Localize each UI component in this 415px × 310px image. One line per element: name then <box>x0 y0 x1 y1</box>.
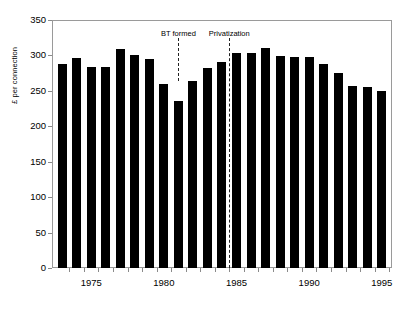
y-axis-tick-label: 200 <box>20 121 46 131</box>
bar <box>276 56 285 268</box>
x-axis-tick-mark <box>316 268 317 272</box>
bar <box>334 73 343 268</box>
bar <box>101 67 110 268</box>
x-axis-tick-mark <box>258 268 259 272</box>
x-axis-tick-mark <box>331 268 332 272</box>
x-axis-tick-mark <box>215 268 216 272</box>
bar <box>232 53 241 268</box>
bar <box>377 91 386 268</box>
x-axis-tick-mark <box>244 268 245 272</box>
bar <box>116 49 125 268</box>
bar <box>72 58 81 268</box>
y-axis-tick-label: 150 <box>20 157 46 167</box>
bar <box>174 101 183 268</box>
bar <box>319 64 328 268</box>
bar <box>247 53 256 268</box>
x-axis-tick-mark <box>113 268 114 272</box>
bar <box>87 67 96 268</box>
annotation-line <box>178 38 179 81</box>
bar <box>290 57 299 268</box>
x-axis-tick-mark <box>186 268 187 272</box>
x-axis-tick-mark <box>84 268 85 272</box>
bar <box>348 86 357 268</box>
y-axis-tick-label: 250 <box>20 86 46 96</box>
bar <box>159 84 168 268</box>
x-axis-tick-mark <box>200 268 201 272</box>
x-axis-tick-mark <box>273 268 274 272</box>
bar <box>305 57 314 268</box>
x-axis-tick-mark <box>142 268 143 272</box>
bar <box>58 64 67 268</box>
x-axis-tick-label: 1975 <box>71 278 111 288</box>
y-axis-tick-mark <box>48 268 52 269</box>
x-axis-tick-mark <box>98 268 99 272</box>
y-axis-tick-label: 350 <box>20 15 46 25</box>
bar <box>188 81 197 268</box>
x-axis-tick-label: 1995 <box>362 278 402 288</box>
y-axis-tick-label: 300 <box>20 50 46 60</box>
x-axis-tick-mark <box>389 268 390 272</box>
bar <box>261 48 270 268</box>
x-axis-tick-mark <box>128 268 129 272</box>
x-axis-tick-mark <box>171 268 172 272</box>
bar <box>130 55 139 268</box>
annotation-line <box>229 38 230 268</box>
x-axis-tick-mark <box>346 268 347 272</box>
x-axis-tick-mark <box>287 268 288 272</box>
bar <box>363 87 372 268</box>
x-axis-tick-label: 1985 <box>217 278 257 288</box>
x-axis-tick-label: 1990 <box>289 278 329 288</box>
x-axis-tick-mark <box>229 268 230 272</box>
x-axis-tick-mark <box>69 268 70 272</box>
y-axis-tick-label: 50 <box>20 228 46 238</box>
y-axis-tick-label: 100 <box>20 192 46 202</box>
bar-chart: £ per connection 050100150200250300350 B… <box>0 0 415 310</box>
bar <box>217 62 226 268</box>
y-axis-title: £ per connection <box>10 14 19 104</box>
x-axis-tick-mark <box>302 268 303 272</box>
x-axis-tick-mark <box>360 268 361 272</box>
bar <box>203 68 212 268</box>
annotation-label: Privatization <box>189 30 269 38</box>
y-axis-tick-label: 0 <box>20 263 46 273</box>
bar <box>145 59 154 268</box>
x-axis-tick-mark <box>157 268 158 272</box>
x-axis-tick-label: 1980 <box>144 278 184 288</box>
x-axis-tick-mark <box>375 268 376 272</box>
